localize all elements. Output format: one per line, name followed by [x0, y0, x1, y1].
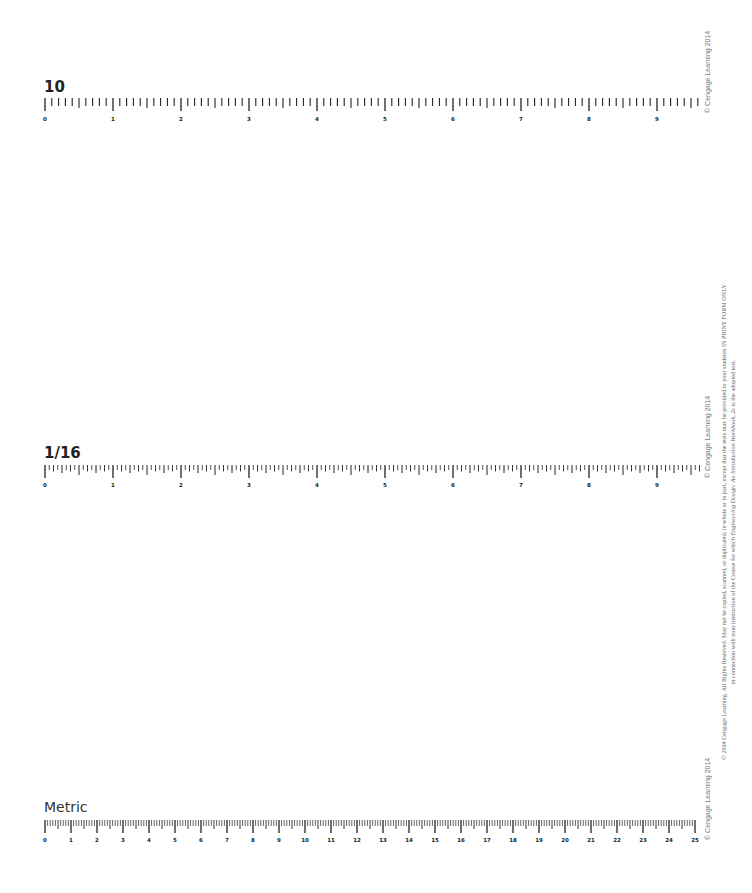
tick-label: 1	[111, 116, 115, 122]
tick-label: 6	[451, 482, 455, 488]
tick-label: 9	[277, 837, 281, 843]
tick-label: 18	[509, 837, 517, 843]
tick-label: 2	[95, 837, 99, 843]
tick-label: 8	[251, 837, 255, 843]
tick-label: 0	[43, 482, 47, 488]
tick-label: 1	[111, 482, 115, 488]
ruler-metric: 0123456789101112131415161718192021222324…	[0, 0, 752, 893]
tick-label: 19	[535, 837, 543, 843]
tick-label: 20	[561, 837, 569, 843]
tick-label: 8	[587, 482, 591, 488]
book-title: Engineering Design: An Introduction Work…	[729, 408, 736, 536]
tick-label: 5	[173, 837, 177, 843]
tick-label: 21	[587, 837, 595, 843]
tick-label: 5	[383, 482, 387, 488]
tick-label: 9	[655, 482, 659, 488]
credit-sixteenths: © Cengage Learning 2014	[704, 396, 711, 478]
tick-label: 6	[199, 837, 203, 843]
tick-label: 7	[519, 482, 523, 488]
ruler-title-sixteenths: 1/16	[44, 446, 81, 461]
legal-line-2: in connection with your instruction of t…	[728, 157, 737, 887]
tick-label: 0	[43, 837, 47, 843]
ruler-tenths-ticks: 0123456789	[0, 0, 752, 893]
tick-label: 5	[383, 116, 387, 122]
tick-label: 1	[69, 837, 73, 843]
ruler-metric-ticks: 0123456789101112131415161718192021222324…	[0, 0, 752, 893]
legal-line-1: © 2014 Cengage Learning. All Rights Rese…	[719, 157, 728, 887]
tick-label: 17	[483, 837, 491, 843]
tick-label: 23	[639, 837, 647, 843]
ruler-tenths: 0123456789	[0, 0, 752, 893]
tick-label: 6	[451, 116, 455, 122]
tick-label: 4	[147, 837, 151, 843]
tick-label: 10	[301, 837, 309, 843]
tick-label: 3	[247, 482, 251, 488]
tick-label: 3	[121, 837, 125, 843]
tick-label: 24	[665, 837, 673, 843]
tick-label: 14	[405, 837, 413, 843]
tick-label: 22	[613, 837, 621, 843]
tick-label: 4	[315, 482, 319, 488]
tick-label: 7	[225, 837, 229, 843]
legal-notice: © 2014 Cengage Learning. All Rights Rese…	[719, 157, 737, 887]
credit-tenths: © Cengage Learning 2014	[704, 31, 711, 113]
tick-label: 9	[655, 116, 659, 122]
tick-label: 7	[519, 116, 523, 122]
ruler-title-tenths: 10	[44, 80, 65, 95]
ruler-sixteenths: 0123456789	[0, 0, 752, 893]
tick-label: 11	[327, 837, 335, 843]
tick-label: 13	[379, 837, 387, 843]
tick-label: 16	[457, 837, 465, 843]
tick-label: 2	[179, 482, 183, 488]
ruler-title-metric: Metric	[44, 800, 88, 814]
tick-label: 15	[431, 837, 439, 843]
tick-label: 4	[315, 116, 319, 122]
tick-label: 12	[353, 837, 361, 843]
ruler-sixteenths-ticks: 0123456789	[0, 0, 752, 893]
tick-label: 3	[247, 116, 251, 122]
credit-metric: © Cengage Learning 2014	[704, 758, 711, 840]
tick-label: 25	[691, 837, 699, 843]
tick-label: 0	[43, 116, 47, 122]
tick-label: 2	[179, 116, 183, 122]
tick-label: 8	[587, 116, 591, 122]
